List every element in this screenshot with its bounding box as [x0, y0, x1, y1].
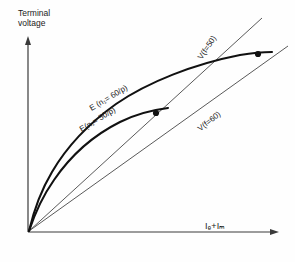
- operating-point-50hz: [153, 110, 159, 116]
- axis-y-label: Terminal voltage: [18, 8, 50, 28]
- axis-y-label-line2: voltage: [18, 18, 45, 28]
- voltage-lines: [29, 18, 288, 231]
- axis-x-label: Iₑ+Iₘ: [205, 221, 226, 231]
- line-v-f50: [29, 18, 262, 231]
- operating-point-60hz: [255, 51, 261, 57]
- emf-curves: [29, 52, 272, 231]
- saturation-curve-figure: Terminal voltage Iₑ+Iₘ E (n₁= 60/p) E(n₁…: [0, 0, 295, 262]
- figure-canvas: [0, 0, 295, 262]
- x-axis-arrowhead: [270, 229, 279, 235]
- y-axis-arrowhead: [25, 36, 31, 45]
- axis-y-label-line1: Terminal: [18, 8, 50, 18]
- line-v-f60: [29, 46, 288, 231]
- axes: [25, 36, 279, 235]
- curve-e-n60: [29, 52, 272, 231]
- operating-points: [153, 51, 261, 116]
